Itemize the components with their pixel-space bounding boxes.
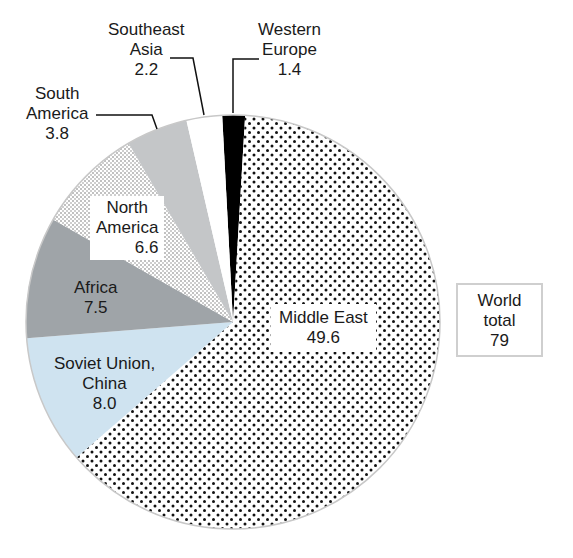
label-name: North <box>96 198 158 218</box>
leader-line-western-europe <box>233 59 259 113</box>
label-name: Europe <box>258 40 321 60</box>
label-value: 8.0 <box>54 394 155 414</box>
label-name: Southeast <box>108 20 185 40</box>
label-africa: Africa 7.5 <box>74 278 117 318</box>
label-name: Asia <box>108 40 185 60</box>
label-name: Western <box>258 20 321 40</box>
label-name: China <box>54 374 155 394</box>
pie-slices <box>26 115 440 529</box>
label-soviet-union-china: Soviet Union, China 8.0 <box>54 354 155 414</box>
label-value: 6.6 <box>96 238 158 258</box>
total-label: World <box>458 291 541 311</box>
label-value: 2.2 <box>108 60 185 80</box>
label-value: 7.5 <box>74 298 117 318</box>
label-southeast-asia: Southeast Asia 2.2 <box>108 20 185 80</box>
label-name: America <box>26 104 88 124</box>
label-western-europe: Western Europe 1.4 <box>258 20 321 80</box>
world-total-box: World total 79 <box>456 283 543 357</box>
label-value: 3.8 <box>26 124 88 144</box>
label-middle-east: Middle East 49.6 <box>271 304 376 352</box>
label-value: 1.4 <box>258 60 321 80</box>
label-name: America <box>96 218 158 238</box>
label-name: Soviet Union, <box>54 354 155 374</box>
label-south-america: South America 3.8 <box>26 84 88 144</box>
label-north-america: North America 6.6 <box>90 196 164 260</box>
label-name: Africa <box>74 278 117 298</box>
label-name: South <box>26 84 88 104</box>
leader-line-south-america <box>96 115 157 129</box>
total-label: total <box>458 311 541 331</box>
total-value: 79 <box>458 331 541 351</box>
label-value: 49.6 <box>279 328 368 348</box>
label-name: Middle East <box>279 308 368 328</box>
